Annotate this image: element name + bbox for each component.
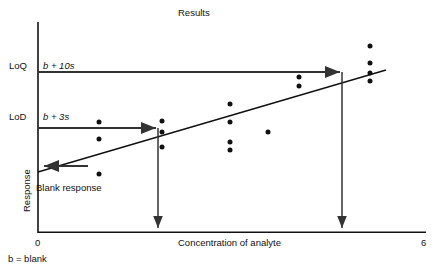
regression-line — [38, 70, 386, 172]
data-point — [368, 79, 373, 84]
x-axis-max-tick: 6 — [421, 238, 426, 248]
data-point — [160, 145, 165, 150]
data-point — [297, 84, 302, 89]
data-point — [97, 172, 102, 177]
chart-title: Results — [178, 8, 210, 18]
data-point — [266, 130, 271, 135]
data-point — [160, 119, 165, 124]
blank-response-label: Blank response — [36, 183, 101, 193]
data-point — [97, 137, 102, 142]
data-point — [297, 75, 302, 80]
data-point — [228, 140, 233, 145]
x-axis-min-tick: 0 — [35, 238, 40, 248]
data-point-group — [97, 44, 373, 177]
data-point — [97, 120, 102, 125]
data-point — [368, 61, 373, 66]
x-axis-label: Concentration of analyte — [178, 238, 281, 248]
lod-formula-label: b + 3s — [43, 112, 69, 122]
data-point — [228, 120, 233, 125]
data-point — [368, 71, 373, 76]
lod-axis-label: LoD — [9, 112, 26, 122]
loq-axis-label: LoQ — [9, 61, 27, 71]
results-figure: Results LoQ b + 10s LoD b + 3s Blank res… — [0, 0, 440, 267]
data-point — [368, 44, 373, 49]
chart-canvas — [0, 0, 440, 267]
footnote: b = blank — [8, 254, 47, 264]
loq-formula-label: b + 10s — [43, 61, 74, 71]
data-point — [160, 130, 165, 135]
data-point — [228, 148, 233, 153]
data-point — [228, 102, 233, 107]
y-axis-label: Response — [22, 169, 32, 212]
